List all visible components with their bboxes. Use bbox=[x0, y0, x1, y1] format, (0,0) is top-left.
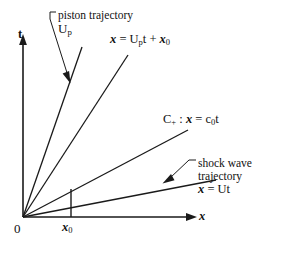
shock-eq-rhs: = Ut bbox=[204, 182, 230, 196]
piston-speed-subscript: p bbox=[67, 27, 71, 37]
piston-equation-label: x = Upt + x0 bbox=[110, 33, 170, 48]
piston-speed-label: Up bbox=[58, 22, 72, 38]
shock-label-line2: trajectory bbox=[198, 170, 242, 182]
shock-label-line1: shock wave bbox=[198, 157, 252, 169]
shock-leader-line bbox=[170, 160, 189, 178]
characteristic-rhs: = c bbox=[192, 112, 211, 126]
characteristic-line bbox=[23, 130, 188, 217]
characteristic-rhs-t: t bbox=[215, 112, 218, 126]
piston-trajectory-line bbox=[23, 47, 82, 217]
piston-trajectory-label: piston trajectory bbox=[58, 9, 133, 21]
piston-speed-symbol: U bbox=[58, 21, 67, 36]
x-axis-arrowhead bbox=[186, 213, 197, 221]
piston-equation-line bbox=[23, 55, 128, 217]
shock-equation-label: x = Ut bbox=[198, 183, 230, 197]
x-axis-label: x bbox=[199, 210, 205, 224]
characteristic-equation-label: C+ : x = c0t bbox=[163, 113, 219, 128]
x0-tick-label: x0 bbox=[62, 221, 73, 236]
t-axis-label: t bbox=[18, 28, 22, 42]
piston-eq-rhs-b: t + bbox=[143, 32, 160, 46]
piston-eq-sub-b: 0 bbox=[166, 37, 170, 47]
x0-subscript: 0 bbox=[68, 225, 72, 235]
piston-leader-hook bbox=[50, 12, 56, 19]
piston-leader-arrowhead bbox=[63, 71, 71, 84]
shock-trajectory-line bbox=[23, 180, 216, 217]
characteristic-separator: : bbox=[176, 112, 186, 126]
piston-eq-rhs-a: = U bbox=[116, 32, 138, 46]
origin-label: 0 bbox=[14, 222, 21, 236]
